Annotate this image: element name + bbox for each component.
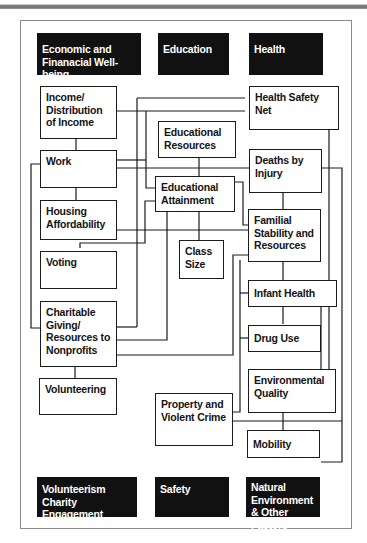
node-volunteering: Volunteering	[39, 378, 117, 415]
category-health: Health	[249, 33, 323, 75]
node-label: Charitable Giving/ Resources to Nonprofi…	[46, 306, 110, 356]
node-familial-stability: Familial Stability and Resources	[248, 209, 321, 262]
node-label: Drug Use	[254, 332, 299, 345]
node-property-violent-crime: Property and Violent Crime	[155, 393, 233, 446]
node-housing-affordability: Housing Affordability	[40, 200, 117, 240]
node-mobility: Mobility	[247, 430, 320, 458]
node-label: Mobility	[253, 438, 291, 451]
node-educational-attainment: Educational Attainment	[155, 176, 235, 212]
node-label: Housing Affordability	[46, 205, 105, 230]
node-label: Educational Resources	[164, 126, 221, 151]
node-voting: Voting	[40, 251, 117, 289]
node-label: Class Size	[185, 245, 212, 270]
node-label: Educational Attainment	[161, 181, 218, 206]
node-educational-resources: Educational Resources	[158, 121, 236, 158]
category-natural-environment: Natural Environment & Other Factors	[246, 477, 320, 517]
node-label: Deaths by Injury	[255, 154, 303, 179]
category-education: Education	[158, 33, 229, 75]
node-deaths-by-injury: Deaths by Injury	[249, 149, 322, 193]
node-label: Property and Violent Crime	[161, 398, 226, 423]
category-label: Economic and Finanacial Well-being	[42, 43, 118, 80]
node-label: Volunteering	[45, 383, 106, 395]
node-income: Income/ Distribution of Income	[40, 86, 117, 139]
category-label: Volunteerism Charity Engagement	[42, 483, 105, 520]
node-health-safety-net: Health Safety Net	[249, 86, 339, 130]
category-economic: Economic and Finanacial Well-being	[37, 33, 141, 75]
node-drug-use: Drug Use	[248, 325, 321, 352]
node-class-size: Class Size	[179, 240, 224, 279]
node-infant-health: Infant Health	[248, 280, 337, 307]
node-label: Environmental Quality	[254, 374, 324, 399]
node-label: Familial Stability and Resources	[254, 214, 314, 251]
category-label: Safety	[160, 483, 190, 495]
category-safety: Safety	[155, 477, 229, 517]
node-work: Work	[40, 150, 117, 188]
category-volunteerism: Volunteerism Charity Engagement	[37, 477, 137, 517]
node-label: Health Safety Net	[255, 91, 319, 116]
category-label: Education	[163, 43, 212, 55]
category-label: Health	[254, 43, 285, 55]
node-label: Work	[46, 155, 71, 167]
node-label: Infant Health	[254, 287, 315, 300]
node-environmental-quality: Environmental Quality	[248, 369, 336, 413]
node-label: Voting	[46, 256, 77, 268]
node-charitable-giving: Charitable Giving/ Resources to Nonprofi…	[40, 301, 117, 367]
node-label: Income/ Distribution of Income	[46, 91, 103, 128]
